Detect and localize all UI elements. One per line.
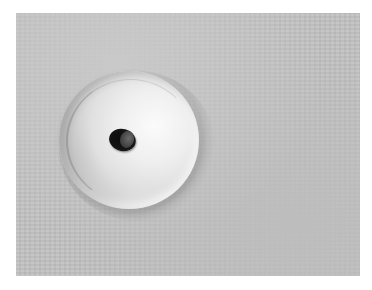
surface-photo (16, 13, 360, 276)
